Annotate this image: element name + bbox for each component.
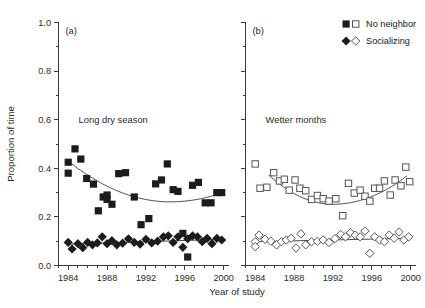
data-point: [297, 230, 305, 238]
panel-annotation-b: Wetter months: [266, 114, 327, 125]
data-point: [145, 215, 152, 222]
data-point: [158, 176, 165, 183]
x-tick-label: 1988: [284, 273, 304, 283]
data-point: [376, 185, 382, 191]
data-point: [357, 187, 363, 193]
panel-annotation-a: Long dry season: [79, 114, 148, 125]
x-tick-label: 1992: [136, 273, 156, 283]
data-point: [122, 169, 129, 176]
series-socializing-b: [251, 227, 413, 258]
data-point: [403, 164, 409, 170]
scatter-chart-svg: 0.00.20.40.60.81.019841988199219962000(a…: [0, 0, 425, 308]
data-point: [264, 184, 270, 190]
data-point: [252, 161, 258, 167]
data-point: [115, 170, 122, 177]
legend: No neighborSocializing: [342, 19, 417, 46]
panel-label-a: (a): [66, 25, 77, 36]
x-axis-title: Year of study: [209, 286, 265, 297]
data-point: [71, 145, 78, 152]
data-point: [103, 191, 110, 198]
x-tick-label: 1992: [323, 273, 343, 283]
data-point: [195, 179, 202, 186]
data-point: [366, 249, 374, 257]
data-point: [137, 221, 144, 228]
legend-label: No neighbor: [366, 19, 416, 29]
y-tick-label: 0.8: [38, 66, 51, 76]
x-tick-label: 1984: [245, 273, 265, 283]
data-point: [398, 183, 404, 189]
series-no-neighbor-b: [252, 161, 413, 219]
data-point: [207, 199, 214, 206]
data-point: [77, 155, 84, 162]
y-tick-label: 0.6: [38, 115, 51, 125]
data-point: [333, 195, 339, 201]
data-point: [303, 187, 309, 193]
legend-marker-open-square: [353, 21, 359, 27]
data-point: [257, 185, 263, 191]
data-point: [95, 207, 102, 214]
data-point: [270, 169, 276, 175]
data-point: [339, 212, 345, 218]
x-tick-label: 1996: [175, 273, 195, 283]
panel-label-b: (b): [253, 25, 264, 36]
series-socializing-a: [64, 231, 227, 253]
data-point: [83, 175, 90, 182]
data-point: [292, 244, 300, 252]
y-tick-label: 1.0: [38, 18, 51, 28]
x-tick-label: 1984: [58, 273, 78, 283]
data-point: [292, 177, 298, 183]
data-point: [108, 201, 115, 208]
data-point: [178, 243, 187, 252]
figure-container: 0.00.20.40.60.81.019841988199219962000(a…: [0, 0, 425, 308]
data-point: [345, 180, 351, 186]
x-tick-label: 2000: [400, 273, 420, 283]
data-point: [184, 253, 191, 260]
data-point: [218, 189, 225, 196]
data-point: [367, 198, 373, 204]
data-point: [90, 181, 97, 188]
y-tick-label: 0.2: [38, 212, 51, 222]
panel-b: 19841988199219962000(b)Wetter months: [241, 23, 421, 284]
panel-a: 0.00.20.40.60.81.019841988199219962000(a…: [38, 18, 234, 283]
data-point: [381, 178, 387, 184]
x-tick-label: 1988: [97, 273, 117, 283]
data-point: [326, 198, 332, 204]
legend-marker-filled-square: [343, 20, 350, 27]
y-tick-label: 0.4: [38, 164, 51, 174]
data-point: [65, 159, 72, 166]
legend-marker-filled-diamond: [342, 36, 351, 45]
data-point: [387, 192, 393, 198]
data-point: [286, 187, 292, 193]
x-tick-label: 2000: [213, 273, 233, 283]
data-point: [131, 193, 138, 200]
data-point: [65, 170, 72, 177]
legend-marker-open-diamond: [352, 37, 360, 45]
y-axis-title: Proportion of time: [5, 106, 16, 182]
y-tick-label: 0.0: [38, 261, 51, 271]
data-point: [281, 176, 287, 182]
x-tick-label: 1996: [362, 273, 382, 283]
data-point: [406, 178, 412, 184]
data-point: [174, 188, 181, 195]
data-point: [164, 160, 171, 167]
data-point: [395, 228, 403, 236]
legend-label: Socializing: [366, 36, 410, 46]
